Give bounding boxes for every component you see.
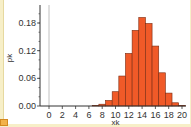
x-tick-label: 16 (150, 110, 160, 120)
bar (132, 30, 139, 106)
bar (106, 100, 113, 106)
x-tick-label: 0 (46, 110, 51, 120)
y-tick-label: 0.00 (18, 101, 36, 111)
bar (139, 17, 146, 106)
bar (125, 53, 132, 106)
x-tick-label: 2 (60, 110, 65, 120)
y-axis-label: pk (5, 53, 14, 62)
bar (145, 23, 152, 106)
y-tick-label: 0.18 (18, 18, 36, 28)
x-tick-label: 20 (177, 110, 187, 120)
x-tick-label: 4 (73, 110, 78, 120)
bar (152, 46, 159, 106)
y-tick-label: 0.06 (18, 73, 36, 83)
x-axis-label: xk (112, 118, 121, 127)
bar-chart: 0.000.060.120.1802468101214161820xkpk (0, 0, 191, 127)
x-tick-label: 6 (86, 110, 91, 120)
bar (159, 73, 166, 106)
window-corner-icon (0, 119, 8, 126)
y-tick-label: 0.12 (18, 46, 36, 56)
x-tick-label: 18 (164, 110, 174, 120)
bar (119, 76, 126, 106)
bar (112, 92, 119, 106)
x-tick-label: 14 (137, 110, 147, 120)
x-tick-label: 8 (100, 110, 105, 120)
x-tick-label: 12 (124, 110, 134, 120)
bar (165, 93, 172, 106)
